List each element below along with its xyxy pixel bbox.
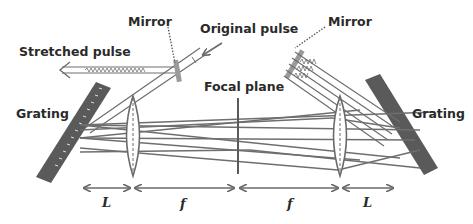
left-grating [36,82,111,183]
original-pulse-label: Original pulse [200,21,298,36]
original-pulse-arrow [203,43,222,55]
stretcher-diagram: Mirror Original pulse Mirror Stretched p… [0,0,473,224]
left-lens [127,96,140,176]
right-mirror-label: Mirror [328,14,373,29]
right-grating-label: Grating [412,106,465,121]
dimension-label-L-left: L [101,195,111,210]
dimension-label-f-left: f [179,196,188,211]
dimension-label-f-right: f [286,196,295,211]
stretched-pulse-label: Stretched pulse [19,44,131,59]
left-mirror-label: Mirror [128,14,173,29]
right-lens [334,96,347,176]
left-mirror-pointer [168,27,175,63]
left-grating-label: Grating [16,106,69,121]
right-mirror-pointer [295,27,325,48]
focal-plane-label: Focal plane [204,79,284,94]
dimension-label-L-right: L [362,195,372,210]
